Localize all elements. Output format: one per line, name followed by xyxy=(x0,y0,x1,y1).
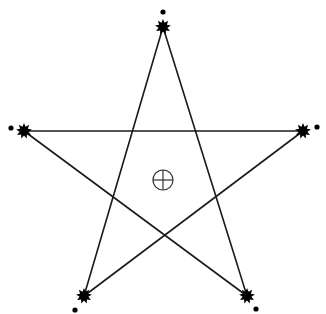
dot-icon xyxy=(72,307,77,312)
edge-top-bottom-left xyxy=(84,27,163,296)
starburst-icon xyxy=(155,19,171,35)
edge-right-bottom-left xyxy=(84,131,303,296)
dot-icon xyxy=(314,124,319,129)
starburst-icon xyxy=(295,123,311,139)
center-symbol xyxy=(153,170,173,190)
edge-left-bottom-right xyxy=(24,131,247,296)
pentagram-diagram xyxy=(0,0,326,314)
dot-icon xyxy=(160,9,165,14)
starburst-icon xyxy=(239,288,255,304)
starburst-icon xyxy=(76,288,92,304)
starburst-icon xyxy=(16,123,32,139)
dot-icon xyxy=(253,306,258,311)
dot-icon xyxy=(8,125,13,130)
edge-top-bottom-right xyxy=(163,27,247,296)
star-edges xyxy=(24,27,303,296)
vertex-markers xyxy=(8,9,319,312)
